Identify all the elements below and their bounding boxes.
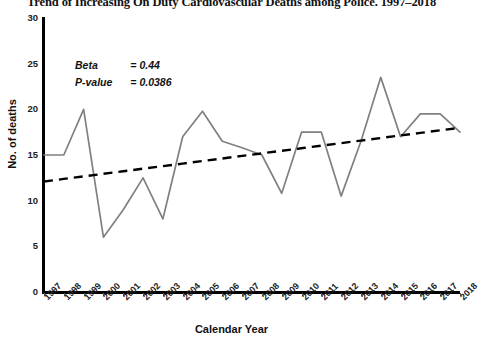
x-axis-title: Calendar Year <box>0 323 463 335</box>
y-tick-5: 5 <box>12 241 38 251</box>
y-tick-10: 10 <box>12 196 38 206</box>
beta-label: Beta <box>75 58 130 75</box>
x-tick-2018: 2018 <box>458 281 479 302</box>
chart-title: Trend of Increasing On Duty Cardiovascul… <box>0 0 463 13</box>
pvalue-label: P-value <box>75 75 130 92</box>
beta-value: = 0.44 <box>130 58 171 75</box>
y-axis-title: No. of deaths <box>6 74 18 194</box>
y-tick-30: 30 <box>12 13 38 23</box>
linear-trend-line <box>44 128 460 182</box>
deaths-series-line <box>44 77 460 237</box>
statistics-annotation: Beta = 0.44 P-value = 0.0386 <box>75 58 172 92</box>
pvalue-value: = 0.0386 <box>130 75 171 92</box>
y-tick-25: 25 <box>12 59 38 69</box>
